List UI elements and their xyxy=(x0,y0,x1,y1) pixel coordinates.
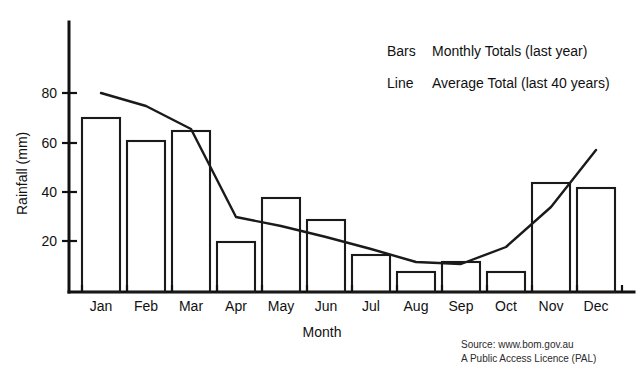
bar-may xyxy=(262,198,300,292)
x-tick-label-sep: Sep xyxy=(449,298,474,314)
bar-feb xyxy=(127,141,165,292)
bar-jun xyxy=(307,220,345,292)
x-tick-label-nov: Nov xyxy=(539,298,564,314)
chart-canvas: 80 60 40 20 Rainfall (mm) xyxy=(0,0,642,373)
y-axis-title: Rainfall (mm) xyxy=(14,132,30,215)
bar-jan xyxy=(82,118,120,292)
bar-sep xyxy=(442,262,480,292)
x-axis-title: Month xyxy=(303,324,342,340)
average-trend-line xyxy=(101,93,596,264)
x-tick-label-feb: Feb xyxy=(134,298,158,314)
rainfall-chart: 80 60 40 20 Rainfall (mm) xyxy=(0,0,642,373)
x-tick-label-dec: Dec xyxy=(584,298,609,314)
bar-jul xyxy=(352,255,390,292)
x-tick-label-may: May xyxy=(268,298,294,314)
source-licence: A Public Access Licence (PAL) xyxy=(461,353,596,364)
legend-key-line: Line xyxy=(387,75,414,91)
x-tick-label-aug: Aug xyxy=(404,298,429,314)
y-tick-label-60: 60 xyxy=(41,135,57,151)
x-tick-label-apr: Apr xyxy=(225,298,247,314)
x-tick-label-jun: Jun xyxy=(315,298,338,314)
bar-apr xyxy=(217,242,255,292)
x-tick-label-jul: Jul xyxy=(362,298,380,314)
source-url: Source: www.bom.gov.au xyxy=(461,339,574,350)
x-tick-label-oct: Oct xyxy=(495,298,517,314)
y-tick-label-40: 40 xyxy=(41,184,57,200)
bar-dec xyxy=(577,188,615,292)
bar-aug xyxy=(397,272,435,292)
bar-oct xyxy=(487,272,525,292)
y-tick-label-20: 20 xyxy=(41,233,57,249)
legend-desc-line: Average Total (last 40 years) xyxy=(432,75,610,91)
legend-desc-bars: Monthly Totals (last year) xyxy=(432,43,587,59)
legend-key-bars: Bars xyxy=(387,43,416,59)
y-tick-label-80: 80 xyxy=(41,85,57,101)
x-tick-label-mar: Mar xyxy=(179,298,203,314)
bar-nov xyxy=(532,183,570,292)
x-tick-label-jan: Jan xyxy=(90,298,113,314)
